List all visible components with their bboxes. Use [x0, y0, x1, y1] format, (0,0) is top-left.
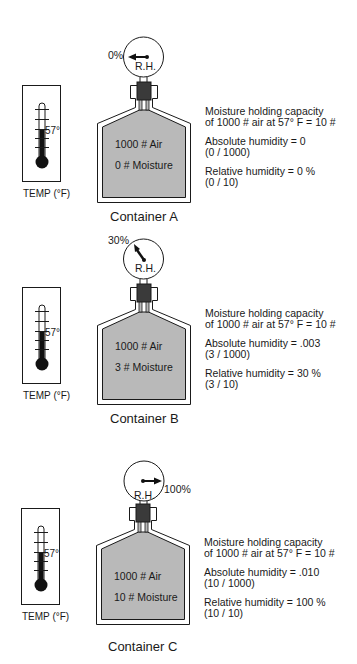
- thermometer-label: TEMP (°F): [22, 611, 69, 622]
- humidity-info: Moisture holding capacity of 1000 # air …: [205, 308, 336, 398]
- thermometer-reading: 57°: [45, 327, 60, 338]
- thermometer-reading: 57°: [45, 125, 60, 136]
- stopper-icon: [137, 284, 151, 302]
- thermometer-label: TEMP (°F): [23, 188, 70, 199]
- stopper-icon: [137, 82, 151, 100]
- container-label: Container B: [110, 411, 179, 426]
- air-amount: 1000 # Air: [115, 340, 162, 352]
- capacity-line-2: of 1000 # air at 57° F = 10 #: [205, 117, 336, 128]
- moisture-amount: 3 # Moisture: [115, 361, 173, 373]
- panel-container-b: 30% R.H. 57° TEMP (°F) 1000 # Air 3 # Mo…: [0, 219, 357, 439]
- panel-container-c: 100% R.H. 57° TEMP (°F) 1000 # Air 10 # …: [0, 440, 357, 660]
- capacity-line-2: of 1000 # air at 57° F = 10 #: [204, 548, 335, 559]
- panel-container-a: 0% R.H. 57° TEMP (°F) 1000 # Air 0 # Moi…: [0, 0, 357, 220]
- relative-calc: (3 / 10): [205, 379, 336, 390]
- absolute-calc: (3 / 1000): [205, 349, 336, 360]
- absolute-calc: (10 / 1000): [204, 578, 335, 589]
- air-amount: 1000 # Air: [114, 570, 161, 582]
- moisture-amount: 10 # Moisture: [114, 591, 178, 603]
- container-label: Container C: [108, 639, 177, 654]
- gauge-label: R.H.: [134, 490, 155, 501]
- gauge-reading: 30%: [108, 235, 129, 246]
- humidity-info: Moisture holding capacity of 1000 # air …: [204, 537, 335, 627]
- gauge-reading: 0%: [108, 50, 123, 61]
- thermometer-reading: 57°: [44, 548, 59, 559]
- relative-calc: (0 / 10): [205, 177, 336, 188]
- thermometer-label: TEMP (°F): [23, 390, 70, 401]
- stopper-icon: [136, 504, 150, 522]
- humidity-info: Moisture holding capacity of 1000 # air …: [205, 106, 336, 196]
- capacity-line-2: of 1000 # air at 57° F = 10 #: [205, 319, 336, 330]
- relative-calc: (10 / 10): [204, 608, 335, 619]
- gauge-label: R.H.: [135, 263, 156, 274]
- moisture-amount: 0 # Moisture: [115, 159, 173, 171]
- air-amount: 1000 # Air: [115, 138, 162, 150]
- gauge-label: R.H.: [135, 61, 156, 72]
- absolute-calc: (0 / 1000): [205, 147, 336, 158]
- container-bottle-icon: [97, 504, 190, 625]
- gauge-reading: 100%: [164, 484, 191, 495]
